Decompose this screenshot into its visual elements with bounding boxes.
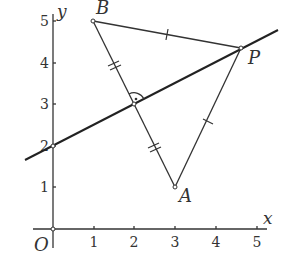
label-P: P [247, 47, 261, 68]
svg-text:4: 4 [212, 234, 221, 250]
y-axis-label: y [56, 1, 67, 21]
origin-label: O [34, 234, 49, 255]
svg-text:3: 3 [171, 234, 180, 250]
axes [33, 14, 267, 248]
label-A: A [177, 185, 192, 206]
svg-text:4: 4 [40, 55, 49, 71]
svg-text:1: 1 [40, 179, 49, 195]
point-M [132, 102, 136, 106]
y-tick-labels: 1 2 3 4 5 [40, 13, 49, 195]
right-angle-dot [135, 98, 138, 101]
svg-text:5: 5 [253, 234, 262, 250]
point-y-intercept [51, 144, 55, 148]
x-tick-labels: 1 2 3 4 5 [90, 234, 262, 250]
origin-point [51, 227, 55, 231]
triangle [93, 21, 241, 187]
point-A [173, 185, 177, 189]
svg-text:3: 3 [40, 96, 49, 112]
point-B [91, 19, 95, 23]
x-axis-label: x [263, 208, 273, 228]
segment-AP [175, 48, 241, 187]
svg-text:2: 2 [130, 234, 139, 250]
svg-text:1: 1 [90, 234, 99, 250]
geometry-diagram: 1 2 3 4 5 1 2 3 4 5 x y O [0, 0, 291, 270]
svg-text:5: 5 [40, 13, 49, 29]
point-P [239, 46, 243, 50]
label-B: B [95, 0, 109, 18]
